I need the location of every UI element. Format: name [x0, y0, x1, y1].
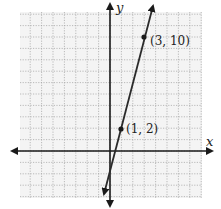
- point-label-3-10: (3, 10): [150, 34, 190, 48]
- y-axis-label: y: [115, 0, 124, 15]
- x-axis-label: x: [206, 134, 214, 149]
- coordinate-plane: y x (1, 2) (3, 10): [0, 0, 221, 209]
- point-1-2: [118, 126, 123, 131]
- point-label-1-2: (1, 2): [126, 122, 158, 136]
- point-3-10: [141, 34, 146, 39]
